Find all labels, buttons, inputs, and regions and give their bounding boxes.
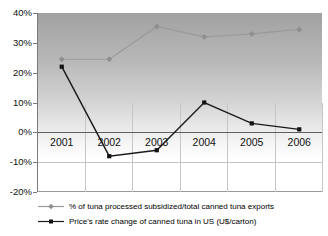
y-axis-tick <box>33 162 37 163</box>
y-axis-tick <box>33 43 37 44</box>
y-axis-tick <box>33 103 37 104</box>
legend-label: % of tuna processed subsidized/total can… <box>69 202 274 211</box>
y-axis-label: 0% <box>1 126 32 137</box>
square-marker-icon <box>107 154 111 158</box>
diamond-marker-icon <box>296 26 302 32</box>
square-marker-icon <box>155 148 159 152</box>
series-line <box>62 67 300 157</box>
y-axis-tick <box>33 192 37 193</box>
legend-diamond-marker-icon <box>38 202 64 211</box>
diamond-marker-icon <box>249 31 255 37</box>
square-marker-icon <box>250 121 254 125</box>
square-marker-icon <box>297 127 301 131</box>
legend-label: Price's rate change of canned tuna in US… <box>69 217 256 226</box>
y-axis-label: -20% <box>1 186 32 197</box>
diamond-marker-icon <box>59 56 65 62</box>
legend-square-marker-icon <box>38 217 64 226</box>
y-axis-tick <box>33 13 37 14</box>
y-axis-label: 20% <box>1 67 32 78</box>
chart: 200120022003200420052006 % of tuna proce… <box>0 0 328 236</box>
y-axis-label: 40% <box>1 7 32 18</box>
square-marker-icon <box>60 65 64 69</box>
legend-entry: Price's rate change of canned tuna in US… <box>38 214 274 229</box>
y-axis-tick <box>33 132 37 133</box>
legend: % of tuna processed subsidized/total can… <box>38 199 274 229</box>
y-axis-label: 30% <box>1 37 32 48</box>
square-marker-icon <box>202 100 206 104</box>
series-line <box>62 26 300 59</box>
legend-entry: % of tuna processed subsidized/total can… <box>38 199 274 214</box>
series-plot <box>38 13 323 192</box>
plot-area: 200120022003200420052006 <box>37 13 322 192</box>
y-axis-label: 10% <box>1 97 32 108</box>
y-axis-tick <box>33 73 37 74</box>
y-axis-label: -10% <box>1 156 32 167</box>
diamond-marker-icon <box>201 34 207 40</box>
